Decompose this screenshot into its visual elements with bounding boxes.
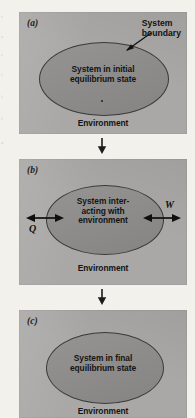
margin-bleed-mark: i [1, 94, 12, 100]
system-boundary-callout-line1: System [142, 18, 181, 28]
panel-c-label: (c) [27, 316, 38, 326]
work-transfer-arrow-icon [141, 211, 183, 225]
heat-transfer-symbol-label: Q [29, 223, 36, 234]
margin-bleed-mark: t [1, 72, 12, 78]
work-transfer-symbol-label: W [165, 199, 174, 210]
system-ellipse-c-text: System in final equilibrium state [19, 354, 187, 373]
panel-c: (c) System in final equilibrium state En… [19, 310, 187, 418]
environment-label-a: Environment [19, 118, 187, 128]
panel-a: (a) System boundary System in initial eq… [19, 12, 187, 134]
margin-bleed-mark: r [1, 14, 12, 20]
ellipse-a-dot [101, 100, 103, 102]
system-ellipse-c-line2: equilibrium state [19, 364, 187, 374]
environment-label-c: Environment [19, 406, 187, 416]
system-ellipse-a-text: System in initial equilibrium state [19, 65, 187, 84]
panel-b: (b) System inter- acting with environmen… [19, 159, 187, 285]
panel-a-label: (a) [27, 18, 38, 28]
environment-label-b: Environment [19, 263, 187, 273]
margin-bleed-mark: f [1, 116, 12, 122]
panel-b-label: (b) [27, 165, 38, 175]
figure-canvas: r s e t i f n (a) System boundary System… [0, 0, 195, 418]
system-boundary-leader-icon [115, 30, 155, 56]
margin-bleed-mark: e [1, 52, 12, 58]
system-ellipse-a-line2: equilibrium state [19, 75, 187, 85]
margin-bleed-mark: s [1, 34, 12, 40]
flow-arrow-b-to-c [96, 289, 108, 305]
flow-arrow-a-to-b [96, 138, 108, 154]
margin-bleed-mark: n [1, 140, 12, 146]
